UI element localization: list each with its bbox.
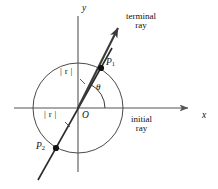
point-p2-label: P2 xyxy=(36,142,45,152)
diagram-canvas xyxy=(0,0,218,189)
point-p2-marker xyxy=(53,145,59,151)
terminal-ray-label: terminal ray xyxy=(126,12,156,31)
magnitude-upper-label: | r | xyxy=(60,67,73,76)
point-p2-subscript: 2 xyxy=(42,144,45,151)
point-p1-label: P1 xyxy=(106,58,115,68)
origin-label: O xyxy=(82,111,89,121)
magnitude-upper-leader xyxy=(80,79,85,84)
angle-theta-label: θ xyxy=(96,83,100,92)
x-axis-label: x xyxy=(202,111,206,121)
magnitude-lower-label: | r | xyxy=(44,110,57,119)
initial-ray-label-line2: ray xyxy=(131,124,152,133)
point-p1-subscript: 1 xyxy=(112,60,115,67)
initial-ray-label: initial ray xyxy=(131,115,152,134)
polar-coordinate-diagram: y x terminal ray initial ray θ O P1 P2 |… xyxy=(0,0,218,189)
point-p1-marker xyxy=(98,65,104,71)
y-axis-label: y xyxy=(82,4,86,14)
terminal-ray-label-line2: ray xyxy=(126,21,156,30)
